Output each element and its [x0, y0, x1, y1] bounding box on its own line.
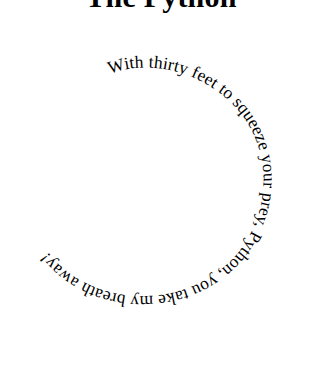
page-canvas: The Python With thirty feet to squeeze y…	[0, 0, 322, 376]
spiral-poem: With thirty feet to squeeze your prey, P…	[0, 0, 322, 376]
spiral-poem-textpath: With thirty feet to squeeze your prey, P…	[35, 51, 280, 312]
spiral-poem-text: With thirty feet to squeeze your prey, P…	[35, 51, 280, 312]
spiral-poem-svg: With thirty feet to squeeze your prey, P…	[0, 0, 322, 376]
